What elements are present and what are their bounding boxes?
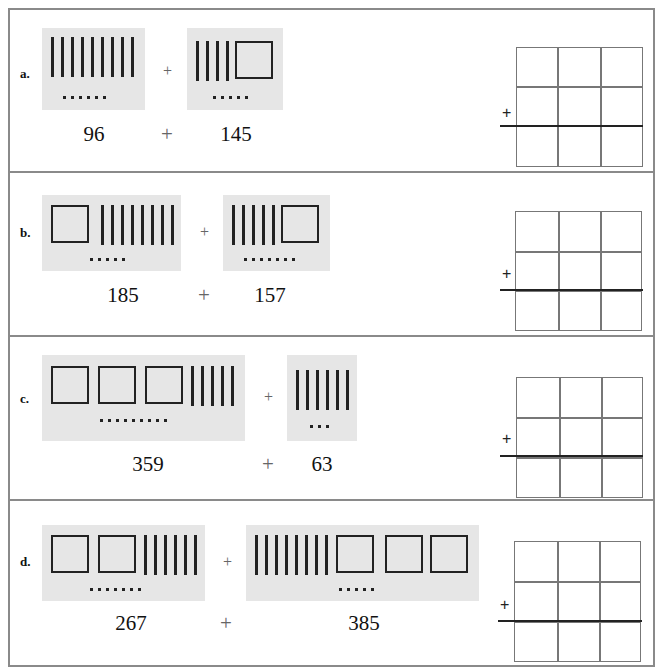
ten-rod bbox=[326, 370, 329, 410]
grid-plus-sign: + bbox=[502, 104, 511, 122]
ten-rod bbox=[101, 205, 104, 245]
ten-rod bbox=[346, 370, 349, 410]
base-ten-model-96 bbox=[42, 28, 145, 110]
ten-rod bbox=[111, 205, 114, 245]
ten-rod bbox=[184, 535, 187, 575]
plus-sign: + bbox=[161, 122, 173, 147]
hundred-flat bbox=[235, 41, 273, 79]
hundred-flat bbox=[98, 366, 136, 404]
problem-label: a. bbox=[20, 66, 30, 82]
grid-line bbox=[557, 542, 559, 661]
answer-grid[interactable] bbox=[516, 47, 643, 167]
problem-a: a. + 96 + 145 + bbox=[8, 8, 655, 172]
ones-units bbox=[244, 254, 300, 260]
ones-units bbox=[339, 584, 379, 590]
problem-label: d. bbox=[20, 554, 30, 570]
grid-line bbox=[517, 457, 642, 459]
ten-rod bbox=[265, 535, 268, 575]
ten-rod bbox=[242, 205, 245, 245]
grid-plus-sign: + bbox=[502, 430, 511, 448]
base-ten-model-267 bbox=[42, 525, 205, 601]
ten-rod bbox=[144, 535, 147, 575]
plus-sign: + bbox=[220, 611, 232, 636]
ten-rod bbox=[315, 535, 318, 575]
sum-line bbox=[500, 125, 643, 127]
grid-line bbox=[516, 251, 641, 253]
ten-rod bbox=[174, 535, 177, 575]
ten-rod bbox=[226, 41, 229, 81]
sum-line bbox=[498, 620, 642, 622]
ones-units bbox=[90, 584, 146, 590]
answer-grid[interactable] bbox=[514, 541, 641, 662]
ten-rod bbox=[285, 535, 288, 575]
ten-rod bbox=[91, 37, 94, 77]
ten-rod bbox=[101, 37, 104, 77]
ones-units bbox=[90, 254, 130, 260]
ten-rod bbox=[171, 205, 174, 245]
ten-rod bbox=[206, 41, 209, 81]
hundred-flat bbox=[336, 535, 374, 573]
ten-rod bbox=[151, 205, 154, 245]
ten-rod bbox=[191, 366, 194, 406]
ten-rod bbox=[121, 37, 124, 77]
ten-rod bbox=[336, 370, 339, 410]
hundred-flat bbox=[51, 535, 89, 573]
grid-plus-sign: + bbox=[502, 265, 511, 283]
addend-2: 145 bbox=[213, 122, 259, 147]
grid-line bbox=[559, 378, 561, 497]
ten-rod bbox=[51, 37, 54, 77]
ten-rod bbox=[211, 366, 214, 406]
base-ten-model-63 bbox=[287, 355, 357, 441]
addend-2: 157 bbox=[247, 283, 293, 308]
answer-grid[interactable] bbox=[516, 377, 643, 498]
ones-units bbox=[213, 92, 253, 98]
ten-rod bbox=[255, 535, 258, 575]
problem-c: c. + 359 + 63 + bbox=[8, 335, 655, 501]
grid-line bbox=[517, 417, 642, 419]
hundred-flat bbox=[145, 366, 183, 404]
plus-sign: + bbox=[262, 452, 274, 477]
base-ten-model-145 bbox=[187, 28, 283, 110]
ten-rod bbox=[161, 205, 164, 245]
sum-line bbox=[500, 455, 643, 457]
model-plus-sign: + bbox=[200, 223, 209, 241]
base-ten-model-185 bbox=[42, 195, 181, 271]
ten-rod bbox=[111, 37, 114, 77]
ten-rod bbox=[231, 366, 234, 406]
ten-rod bbox=[141, 205, 144, 245]
ten-rod bbox=[71, 37, 74, 77]
ten-rod bbox=[131, 205, 134, 245]
ten-rod bbox=[216, 41, 219, 81]
grid-line bbox=[558, 212, 560, 330]
hundred-flat bbox=[51, 366, 89, 404]
hundred-flat bbox=[51, 205, 89, 243]
ten-rod bbox=[61, 37, 64, 77]
base-ten-model-385 bbox=[246, 525, 479, 601]
grid-line bbox=[599, 542, 601, 661]
answer-grid[interactable] bbox=[515, 211, 642, 331]
addend-1: 185 bbox=[100, 283, 146, 308]
ten-rod bbox=[131, 37, 134, 77]
hundred-flat bbox=[430, 535, 468, 573]
ten-rod bbox=[196, 41, 199, 81]
base-ten-model-359 bbox=[42, 355, 245, 441]
addend-1: 96 bbox=[74, 122, 114, 147]
problem-label: b. bbox=[20, 225, 30, 241]
grid-line bbox=[600, 212, 602, 330]
ten-rod bbox=[295, 535, 298, 575]
ten-rod bbox=[154, 535, 157, 575]
ten-rod bbox=[232, 205, 235, 245]
hundred-flat bbox=[385, 535, 423, 573]
ones-units bbox=[63, 92, 111, 98]
sum-line bbox=[500, 289, 643, 291]
ten-rod bbox=[194, 535, 197, 575]
ten-rod bbox=[316, 370, 319, 410]
ten-rod bbox=[262, 205, 265, 245]
ten-rod bbox=[275, 535, 278, 575]
plus-sign: + bbox=[198, 283, 210, 308]
problem-b: b. + 185 + 157 + bbox=[8, 171, 655, 337]
ones-units bbox=[310, 421, 334, 427]
ten-rod bbox=[296, 370, 299, 410]
ten-rod bbox=[306, 370, 309, 410]
problem-d: d. + 267 + 385 + bbox=[8, 499, 655, 667]
